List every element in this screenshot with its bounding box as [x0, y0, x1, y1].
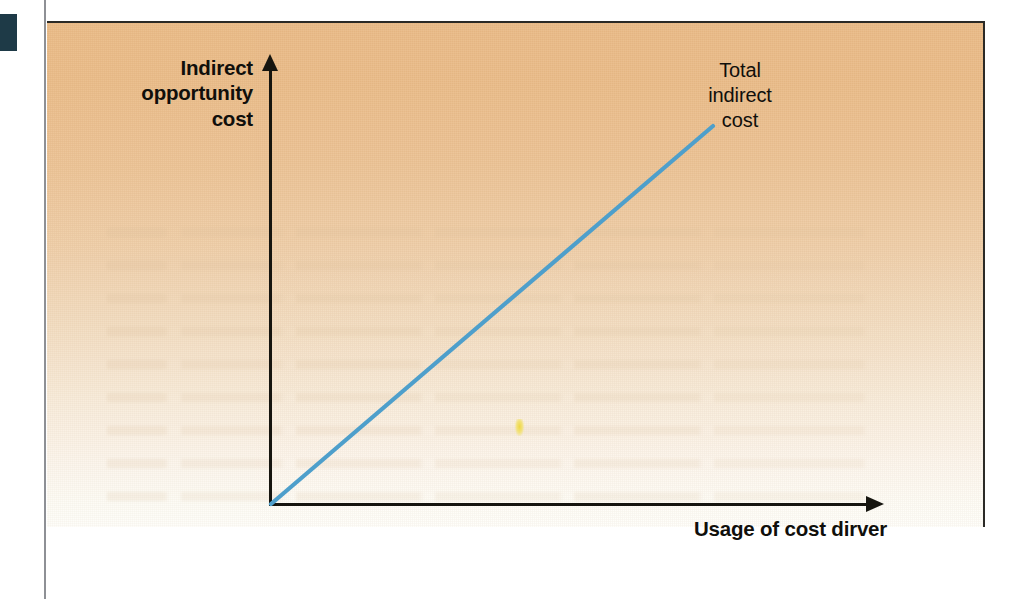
page-margin-rule [44, 0, 46, 599]
bleed-through-text-row [107, 393, 927, 402]
y-axis-arrow-icon [262, 54, 278, 71]
bleed-through-text-row [107, 327, 927, 336]
x-axis-label: Usage of cost dirver [694, 516, 887, 541]
bleed-through-text-row [107, 459, 927, 468]
bleed-through-text-row [107, 492, 927, 501]
series-annotation-total-indirect-cost: Total indirect cost [670, 58, 810, 132]
bleed-through-text-row [107, 261, 927, 270]
x-axis-line [269, 503, 869, 506]
bleed-through-text-row [107, 360, 927, 369]
y-axis-line [269, 68, 272, 506]
figure-screenshot: Indirect opportunity cost Total indirect… [0, 0, 1027, 599]
y-axis-label: Indirect opportunity cost [68, 55, 253, 131]
bleed-through-text-row [107, 294, 927, 303]
bleed-through-text-row [107, 228, 927, 237]
yellow-smudge-artifact [515, 419, 524, 436]
scan-artifact-block [0, 14, 17, 51]
x-axis-arrow-icon [866, 496, 884, 512]
